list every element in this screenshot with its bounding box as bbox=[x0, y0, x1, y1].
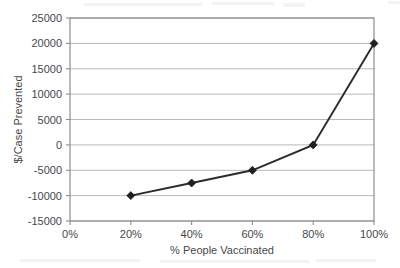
y-tick-label: 0 bbox=[56, 139, 62, 151]
y-tick-label: 20000 bbox=[31, 37, 62, 49]
line-chart: 25000 20000 15000 10000 5000 0 -5000 -10… bbox=[0, 0, 400, 268]
y-tick-label: -5000 bbox=[34, 164, 62, 176]
y-tick-labels: 25000 20000 15000 10000 5000 0 -5000 -10… bbox=[28, 12, 62, 227]
x-tick-label: 60% bbox=[241, 228, 263, 240]
x-tick-label: 100% bbox=[360, 228, 388, 240]
x-axis-ticks bbox=[70, 221, 374, 225]
y-tick-label: 25000 bbox=[31, 12, 62, 24]
x-tick-labels: 0% 20% 40% 60% 80% 100% bbox=[62, 228, 388, 240]
y-tick-label: 15000 bbox=[31, 63, 62, 75]
y-tick-label: -10000 bbox=[28, 190, 62, 202]
x-axis-title: % People Vaccinated bbox=[170, 244, 274, 256]
y-tick-label: 5000 bbox=[38, 114, 62, 126]
x-tick-label: 80% bbox=[302, 228, 324, 240]
y-tick-label: -15000 bbox=[28, 215, 62, 227]
x-tick-label: 20% bbox=[120, 228, 142, 240]
y-tick-label: 10000 bbox=[31, 88, 62, 100]
x-tick-label: 0% bbox=[62, 228, 78, 240]
x-tick-label: 40% bbox=[181, 228, 203, 240]
y-axis-title: $/Case Prevented bbox=[12, 75, 24, 163]
chart-figure: 25000 20000 15000 10000 5000 0 -5000 -10… bbox=[0, 0, 400, 268]
